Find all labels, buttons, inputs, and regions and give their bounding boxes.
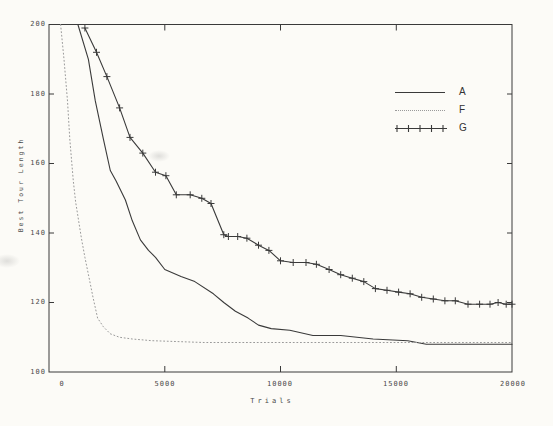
y-tick-label-120: 120 xyxy=(22,298,46,306)
y-tick-label-180: 180 xyxy=(22,90,46,98)
legend-line-sample-plus-markers xyxy=(393,122,449,135)
legend-label-a: A xyxy=(459,86,466,97)
scanned-figure-page: 200 180 160 140 120 100 0 5000 10000 150… xyxy=(0,0,553,426)
x-tick-label-10000: 10000 xyxy=(255,380,305,388)
legend-line-sample-dotted xyxy=(395,110,445,111)
x-tick-label-15000: 15000 xyxy=(371,380,421,388)
y-tick-label-200: 200 xyxy=(22,20,46,28)
legend-label-f: F xyxy=(459,104,465,115)
x-tick-label-5000: 5000 xyxy=(140,380,190,388)
legend-line-sample-solid xyxy=(395,92,445,93)
x-tick-label-20000: 20000 xyxy=(488,380,538,388)
y-tick-label-100: 100 xyxy=(22,368,46,376)
line-chart-canvas xyxy=(0,0,553,426)
legend-label-g: G xyxy=(459,122,467,133)
x-tick-label-0: 0 xyxy=(37,380,87,388)
x-axis-title: Trials xyxy=(222,397,322,405)
y-axis-title: Best Tour Length xyxy=(17,130,27,240)
scan-smudge xyxy=(148,150,170,162)
